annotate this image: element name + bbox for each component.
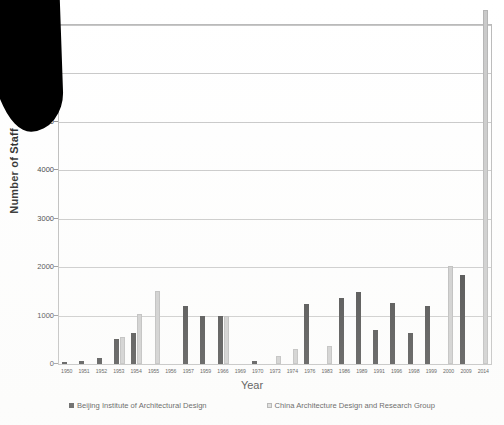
bar-group-2014 [474,25,491,364]
bar-group-1966 [215,25,232,364]
y-tick-label: 2000 [37,262,54,271]
bar-1955-series2 [155,291,160,364]
bar-group-1950 [59,25,76,364]
bar-1986-series1 [339,298,344,364]
bar-group-1959 [197,25,214,364]
bar-group-1996 [387,25,404,364]
bar-1991-series1 [373,330,378,364]
bar-1976-series1 [304,304,309,364]
legend-entry-beijing: Beijing Institute of Architectural Desig… [69,401,207,410]
bar-1954-series1 [131,333,136,364]
bar-1973-series2 [276,356,281,364]
bar-1983-series2 [327,346,332,364]
bar-group-2000 [439,25,456,364]
bar-1989-series1 [356,292,361,364]
bar-group-1970 [249,25,266,364]
bar-1951-series1 [79,361,84,364]
bar-group-1951 [76,25,93,364]
bar-1957-series1 [183,306,188,364]
bar-1998-series1 [408,333,413,364]
dark-square-icon [69,403,74,408]
plot-area [58,24,492,365]
bar-2000-series2 [448,266,453,364]
bar-group-1954 [128,25,145,364]
bar-group-1969 [232,25,249,364]
bar-group-1976 [301,25,318,364]
chart-legend: Beijing Institute of Architectural Desig… [0,398,504,412]
bar-1953-series1 [114,339,119,364]
bar-group-1983 [318,25,335,364]
y-tick-label: 7000 [37,20,54,29]
bar-group-1952 [94,25,111,364]
bar-1954-series2 [137,314,142,364]
y-tick-label: 1000 [37,310,54,319]
bar-1953-series2 [120,337,125,364]
bar-group-1957 [180,25,197,364]
bar-group-1989 [353,25,370,364]
legend-label-china: China Architecture Design and Research G… [275,401,435,410]
bar-1974-series2 [293,349,298,364]
bar-1996-series1 [390,303,395,364]
bar-1966-series1 [218,316,223,364]
bar-1950-series1 [62,362,67,364]
bar-group-1986 [336,25,353,364]
bar-group-1953 [111,25,128,364]
y-axis-title-text: Number of Staff [8,128,20,214]
bar-group-1973 [266,25,283,364]
x-axis-title: Year [0,379,504,391]
legend-entry-china: China Architecture Design and Research G… [267,401,435,410]
y-tick-label: 3000 [37,213,54,222]
legend-label-beijing: Beijing Institute of Architectural Desig… [77,401,207,410]
bar-group-1998 [405,25,422,364]
y-tick-label: 5000 [37,116,54,125]
bar-2014-series2 [483,10,488,364]
bar-group-2009 [456,25,473,364]
bar-1970-series1 [252,361,257,364]
bar-1966-series2 [224,316,229,364]
bars-container [59,25,491,364]
bar-group-1991 [370,25,387,364]
bar-group-1999 [422,25,439,364]
light-square-icon [267,403,272,408]
y-tick-label: 4000 [37,165,54,174]
y-tick-label: 6000 [37,68,54,77]
bar-1952-series1 [97,358,102,364]
bar-chart-figure: Number of Staff 010002000300040005000600… [0,0,504,425]
bar-group-1955 [145,25,162,364]
bar-group-1974 [284,25,301,364]
bar-1999-series1 [425,306,430,364]
bar-2009-series1 [460,275,465,364]
bar-1959-series1 [200,316,205,364]
y-axis-title: Number of Staff [4,0,24,341]
bar-group-1956 [163,25,180,364]
